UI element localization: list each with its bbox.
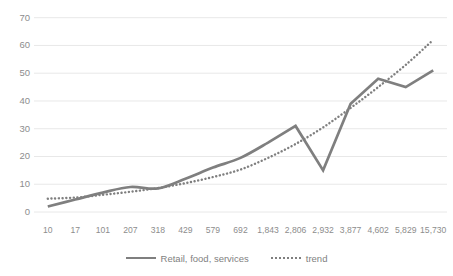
x-tick-label: 5,829 [395, 225, 417, 235]
line-chart: 010203040506070 10171012073184295796921,… [0, 0, 453, 276]
x-tick-label: 579 [206, 225, 220, 235]
legend-entry[interactable]: Retail, food, services [126, 253, 249, 264]
x-tick-label: 4,602 [367, 225, 389, 235]
x-tick-label: 3,877 [340, 225, 362, 235]
x-tick-label: 207 [123, 225, 137, 235]
chart-legend: Retail, food, servicestrend [0, 248, 453, 268]
legend-swatch-solid-icon [126, 257, 156, 259]
x-tick-label: 15,730 [420, 225, 446, 235]
legend-label: trend [306, 253, 328, 264]
x-tick-label: 2,932 [312, 225, 334, 235]
x-tick-label: 10 [43, 225, 53, 235]
x-tick-label: 1,843 [257, 225, 279, 235]
legend-label: Retail, food, services [161, 253, 249, 264]
legend-entry[interactable]: trend [271, 253, 328, 264]
x-tick-label: 318 [151, 225, 165, 235]
x-tick-label: 2,806 [285, 225, 307, 235]
x-axis: 10171012073184295796921,8432,8062,9323,8… [0, 0, 453, 276]
x-tick-label: 692 [233, 225, 247, 235]
x-tick-label: 429 [178, 225, 192, 235]
x-tick-label: 101 [96, 225, 110, 235]
legend-swatch-dotted-icon [271, 257, 301, 259]
x-tick-label: 17 [71, 225, 81, 235]
